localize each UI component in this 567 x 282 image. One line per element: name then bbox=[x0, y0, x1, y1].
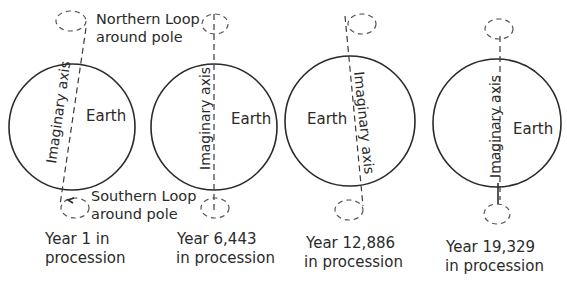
earth-circle bbox=[285, 56, 415, 186]
northern-loop-ellipse bbox=[56, 11, 86, 31]
caption-line2: in procession bbox=[176, 249, 275, 267]
precession-diagram: Imaginary axis Earth Northern Loop aroun… bbox=[0, 0, 567, 282]
axis-label: Imaginary axis bbox=[351, 71, 378, 175]
axis-label: Imaginary axis bbox=[197, 67, 213, 170]
earth-label: Earth bbox=[307, 110, 347, 128]
earth-label: Earth bbox=[513, 120, 553, 138]
northern-loop-label-2: around pole bbox=[96, 29, 183, 45]
caption-line1: Year 12,886 bbox=[305, 234, 395, 252]
panel-year-12886: Imaginary axis Earth Year 12,886 in proc… bbox=[285, 14, 415, 271]
caption-line2: procession bbox=[45, 249, 126, 267]
southern-loop-ellipse bbox=[335, 200, 363, 220]
northern-loop-ellipse bbox=[348, 14, 376, 34]
caption-line1: Year 19,329 bbox=[445, 238, 535, 256]
panel-year-6443: Imaginary axis Earth Year 6,443 in proce… bbox=[151, 14, 277, 267]
earth-label: Earth bbox=[86, 107, 126, 125]
panel-year-19329: Imaginary axis Earth Year 19,329 in proc… bbox=[433, 19, 561, 275]
southern-loop-ellipse bbox=[484, 204, 510, 224]
southern-loop-ellipse bbox=[201, 198, 229, 218]
earth-circle bbox=[9, 64, 135, 190]
northern-loop-label: Northern Loop bbox=[96, 11, 200, 27]
northern-loop-ellipse bbox=[202, 14, 228, 34]
southern-loop-label-2: around pole bbox=[91, 206, 178, 222]
caption-line1: Year 6,443 bbox=[176, 230, 256, 248]
earth-label: Earth bbox=[231, 110, 271, 128]
panel-year-1: Imaginary axis Earth Northern Loop aroun… bbox=[9, 11, 200, 267]
axis-label: Imaginary axis bbox=[487, 75, 503, 178]
caption-line2: in procession bbox=[445, 257, 544, 275]
arrow-icon bbox=[68, 198, 74, 203]
southern-loop-ellipse bbox=[61, 198, 89, 218]
caption-line1: Year 1 in bbox=[44, 230, 110, 248]
caption-line2: in procession bbox=[304, 253, 403, 271]
northern-loop-ellipse bbox=[485, 19, 513, 39]
southern-loop-label: Southern Loop bbox=[91, 188, 196, 204]
